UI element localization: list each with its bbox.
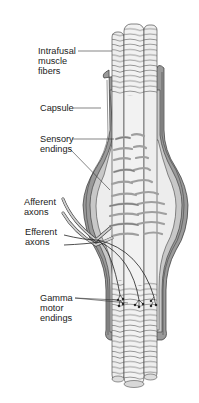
intrafusal-fibers — [112, 24, 157, 388]
label-sensory-endings: Sensory endings — [40, 134, 74, 154]
label-intrafusal-muscle-fibers: Intrafusal muscle fibers — [38, 46, 76, 76]
label-gamma-motor-endings: Gamma motor endings — [40, 293, 73, 323]
label-capsule: Capsule — [40, 103, 74, 113]
label-efferent-axons: Efferent axons — [25, 227, 57, 247]
label-afferent-axons: Afferent axons — [24, 197, 56, 217]
